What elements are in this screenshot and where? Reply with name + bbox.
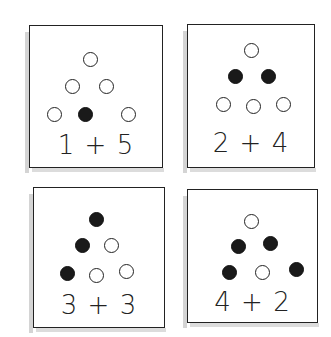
filled-dot bbox=[78, 107, 93, 122]
filled-dot bbox=[222, 265, 237, 280]
empty-dot bbox=[83, 52, 98, 67]
filled-dot bbox=[261, 69, 276, 84]
empty-dot bbox=[89, 268, 104, 283]
card-4-plus-2: 4 + 2 bbox=[187, 189, 318, 323]
card-label: 3 + 3 bbox=[34, 290, 164, 320]
card-3-plus-3: 3 + 3 bbox=[33, 187, 165, 328]
empty-dot bbox=[276, 97, 291, 112]
card-label: 4 + 2 bbox=[188, 287, 317, 317]
card-label: 1 + 5 bbox=[30, 130, 162, 160]
empty-dot bbox=[216, 97, 231, 112]
filled-dot bbox=[228, 69, 243, 84]
filled-dot bbox=[289, 262, 304, 277]
empty-dot bbox=[244, 214, 259, 229]
empty-dot bbox=[244, 43, 259, 58]
card-2-plus-4: 2 + 4 bbox=[187, 24, 315, 168]
empty-dot bbox=[104, 238, 119, 253]
card-label: 2 + 4 bbox=[188, 128, 314, 158]
empty-dot bbox=[65, 79, 80, 94]
filled-dot bbox=[231, 239, 246, 254]
filled-dot bbox=[60, 266, 75, 281]
card-1-plus-5: 1 + 5 bbox=[29, 25, 163, 168]
empty-dot bbox=[47, 107, 62, 122]
empty-dot bbox=[119, 264, 134, 279]
empty-dot bbox=[121, 107, 136, 122]
filled-dot bbox=[263, 236, 278, 251]
empty-dot bbox=[246, 99, 261, 114]
empty-dot bbox=[99, 79, 114, 94]
filled-dot bbox=[89, 212, 104, 227]
empty-dot bbox=[255, 265, 270, 280]
filled-dot bbox=[75, 238, 90, 253]
